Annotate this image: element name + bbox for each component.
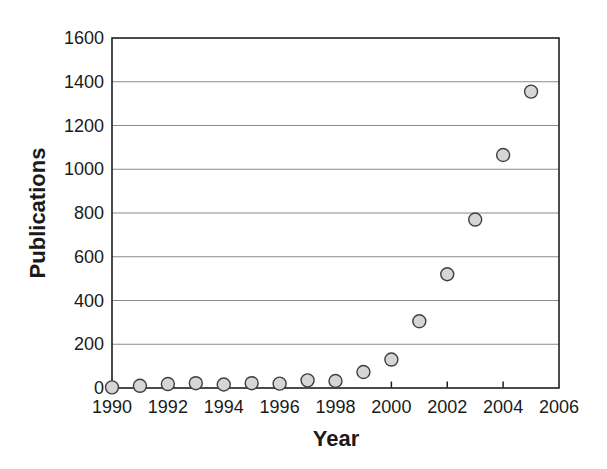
y-tick-label: 600 [74, 247, 104, 267]
x-tick-label: 2000 [371, 397, 411, 417]
x-tick-label: 1990 [92, 397, 132, 417]
publications-scatter-chart: 0200400600800100012001400160019901992199… [0, 0, 607, 469]
y-tick-label: 200 [74, 334, 104, 354]
x-tick-label: 1992 [148, 397, 188, 417]
x-tick-label: 1998 [315, 397, 355, 417]
chart-canvas: 0200400600800100012001400160019901992199… [0, 0, 607, 469]
y-tick-label: 1600 [64, 28, 104, 48]
y-tick-label: 400 [74, 291, 104, 311]
data-point [385, 353, 398, 366]
y-tick-label: 1200 [64, 116, 104, 136]
data-point [106, 381, 119, 394]
data-point [245, 377, 258, 390]
data-point [301, 374, 314, 387]
data-point [133, 379, 146, 392]
y-tick-label: 1400 [64, 72, 104, 92]
y-tick-label: 0 [94, 378, 104, 398]
data-point [497, 149, 510, 162]
data-point [413, 315, 426, 328]
y-tick-label: 800 [74, 203, 104, 223]
data-point [273, 377, 286, 390]
y-tick-label: 1000 [64, 159, 104, 179]
data-point [189, 377, 202, 390]
x-tick-label: 2004 [483, 397, 523, 417]
y-axis-title: Publications [25, 148, 51, 279]
x-tick-label: 1996 [260, 397, 300, 417]
data-point [217, 378, 230, 391]
data-point [525, 85, 538, 98]
x-tick-label: 2006 [539, 397, 579, 417]
x-tick-label: 1994 [204, 397, 244, 417]
data-point [469, 213, 482, 226]
data-point [357, 366, 370, 379]
x-tick-label: 2002 [427, 397, 467, 417]
x-axis-title: Year [313, 426, 360, 452]
data-point [441, 268, 454, 281]
data-point [161, 378, 174, 391]
data-point [329, 375, 342, 388]
